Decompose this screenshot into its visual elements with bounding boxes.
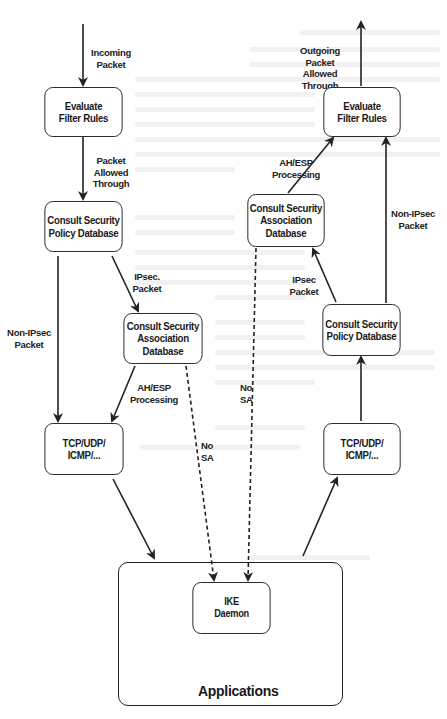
label-outbound-non-ipsec-packet: Non-IPsec Packet xyxy=(390,208,436,231)
node-inbound-transport: TCP/UDP/ ICMP/... xyxy=(44,423,123,475)
node-text: Evaluate Filter Rules xyxy=(337,100,386,125)
label-inbound-ahesp-processing: AH/ESP Processing xyxy=(128,382,180,405)
label-outgoing-packet-allowed: Outgoing Packet Allowed Through xyxy=(285,45,355,91)
label-outbound-ipsec-packet: IPsec Packet xyxy=(288,274,320,297)
label-outbound-ahesp-processing: AH/ESP Processing xyxy=(270,157,322,180)
inbound-to-apps-arrow xyxy=(113,479,154,558)
node-outbound-consult-sad: Consult Security Association Database xyxy=(247,194,324,247)
node-text: TCP/UDP/ ICMP/... xyxy=(341,437,384,462)
node-inbound-consult-sad: Consult Security Association Database xyxy=(123,313,202,364)
node-text: Consult Security Association Database xyxy=(127,320,199,358)
node-text: Consult Security Policy Database xyxy=(47,214,119,239)
inbound-no-sa-dashed-arrow xyxy=(186,366,214,580)
node-text: Consult Security Policy Database xyxy=(325,318,397,343)
node-ike-daemon: IKE Daemon xyxy=(192,582,270,634)
node-inbound-consult-spd: Consult Security Policy Database xyxy=(44,201,122,252)
node-outbound-consult-spd: Consult Security Policy Database xyxy=(322,304,400,356)
node-inbound-evaluate-filter-rules: Evaluate Filter Rules xyxy=(44,87,122,137)
node-text: IKE Daemon xyxy=(214,596,249,621)
label-inbound-ipsec-packet: IPsec. Packet xyxy=(127,271,167,294)
node-outbound-evaluate-filter-rules: Evaluate Filter Rules xyxy=(323,87,400,137)
label-packet-allowed-through: Packet Allowed Through xyxy=(88,155,134,190)
apps-to-outbound-transport-arrow xyxy=(303,478,337,556)
label-inbound-non-ipsec-packet: Non-IPsec Packet xyxy=(6,327,52,350)
label-outbound-no-sa: No SA xyxy=(240,382,256,405)
outbound-no-sa-dashed-arrow xyxy=(248,248,256,580)
label-inbound-no-sa: No SA xyxy=(201,440,217,463)
label-incoming-packet: Incoming Packet xyxy=(88,47,134,70)
node-text: Consult Security Association Database xyxy=(250,202,322,240)
node-outbound-transport: TCP/UDP/ ICMP/... xyxy=(323,423,400,475)
node-text: Evaluate Filter Rules xyxy=(59,100,108,125)
node-text: TCP/UDP/ ICMP/... xyxy=(63,437,106,462)
applications-label: Applications xyxy=(198,683,278,699)
